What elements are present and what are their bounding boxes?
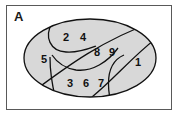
panel-label-a: A [14,10,24,23]
region-label-4: 4 [80,31,87,43]
region-label-5: 5 [41,53,47,65]
venn-region-diagram: 2 4 8 9 5 1 3 6 7 [6,5,172,110]
region-label-3: 3 [67,77,73,89]
region-label-7: 7 [98,77,104,89]
region-label-2: 2 [63,31,69,43]
region-label-8: 8 [94,46,100,58]
screenshot-root: 2 4 8 9 5 1 3 6 7 A [0,0,180,120]
region-label-9: 9 [109,46,115,58]
region-label-1: 1 [135,56,141,68]
region-label-6: 6 [83,77,89,89]
